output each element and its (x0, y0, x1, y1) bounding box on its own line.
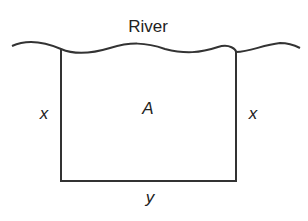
right-side-label: x (249, 105, 258, 122)
river-label: River (128, 18, 168, 35)
area-label: A (142, 100, 153, 117)
bottom-side-label: y (146, 189, 155, 206)
left-side-label: x (40, 105, 49, 122)
river-bank-wave (12, 42, 300, 53)
